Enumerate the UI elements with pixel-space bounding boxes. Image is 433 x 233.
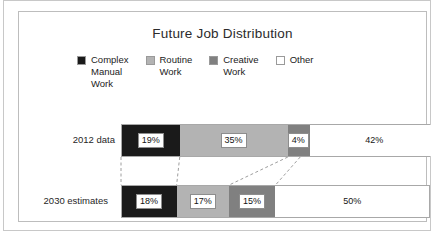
- chart-outer-frame: Future Job Distribution Complex Manual W…: [3, 0, 431, 231]
- stacked-bar-2030-estimates: 18% 17% 15% 50%: [121, 185, 430, 218]
- bar-segment-creative-work[interactable]: 4%: [288, 125, 310, 156]
- bar-segment-other[interactable]: 50%: [275, 186, 429, 217]
- bar-value-label: 4%: [288, 133, 309, 148]
- stacked-bar-2012-data: 19% 35% 4% 42%: [121, 124, 430, 157]
- bar-value-label: 18%: [136, 194, 162, 209]
- bar-value-label: 15%: [239, 194, 265, 209]
- bar-value-label: 42%: [362, 134, 386, 147]
- bar-segment-complex-manual-work[interactable]: 19%: [122, 125, 180, 156]
- bar-segment-routine-work[interactable]: 17%: [177, 186, 229, 217]
- plot-area: 2012 data 19% 35% 4% 42% 2030 estimates …: [19, 12, 426, 221]
- chart-panel: Future Job Distribution Complex Manual W…: [18, 11, 427, 222]
- bar-segment-creative-work[interactable]: 15%: [229, 186, 275, 217]
- row-label-2030-estimates: 2030 estimates: [20, 195, 108, 206]
- bar-value-label: 50%: [340, 195, 364, 208]
- bar-segment-routine-work[interactable]: 35%: [180, 125, 287, 156]
- bar-segment-other[interactable]: 42%: [310, 125, 433, 156]
- bar-value-label: 35%: [221, 133, 247, 148]
- bar-segment-complex-manual-work[interactable]: 18%: [122, 186, 177, 217]
- bar-value-label: 19%: [138, 133, 164, 148]
- row-label-2012-data: 2012 data: [27, 134, 115, 145]
- bar-value-label: 17%: [190, 194, 216, 209]
